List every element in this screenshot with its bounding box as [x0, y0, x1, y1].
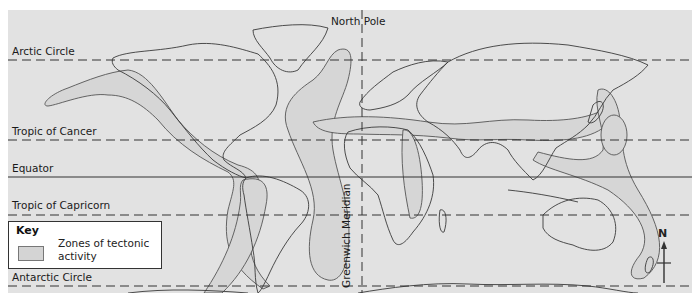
north-arrow: N	[655, 227, 675, 287]
tectonic-zone-swatch	[18, 246, 44, 261]
north-arrow-icon	[655, 241, 675, 300]
key-item-label: Zones of tectonic activity	[58, 237, 149, 263]
key-title: Key	[16, 224, 39, 237]
key-item-line2: activity	[58, 250, 149, 263]
map-key: Key Zones of tectonic activity	[8, 221, 162, 269]
tropic-of-cancer-label: Tropic of Cancer	[12, 125, 97, 137]
equator-label: Equator	[12, 162, 53, 174]
tropic-of-capricorn-label: Tropic of Capricorn	[12, 199, 110, 211]
north-pole-label: North Pole	[331, 15, 385, 27]
arctic-circle-label: Arctic Circle	[12, 45, 75, 57]
greenwich-meridian-label: Greenwich Meridian	[340, 184, 352, 289]
antarctic-circle-label: Antarctic Circle	[12, 271, 92, 283]
north-label: N	[658, 227, 667, 240]
key-item-line1: Zones of tectonic	[58, 237, 149, 250]
